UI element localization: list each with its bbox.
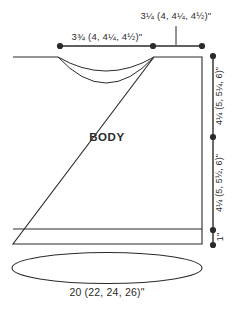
measure-dot	[57, 43, 63, 49]
neck-width-label: 3¾ (4, 4¼, 4½)"	[72, 31, 143, 42]
measure-dot	[210, 227, 216, 233]
measure-dot	[199, 43, 205, 49]
neckline-front-curve	[58, 57, 154, 83]
schematic-drawing: 3¼ (4, 4¼, 4½)" 3¾ (4, 4¼, 4½)" 4¼ (5, 5…	[0, 0, 239, 309]
pattern-schematic: 3¼ (4, 4¼, 4½)" 3¾ (4, 4¼, 4½)" 4¼ (5, 5…	[0, 0, 239, 309]
body-length-label: 4¼ (5, 5½, 6)"	[214, 154, 224, 212]
body-outline	[13, 57, 202, 244]
ribbing-height-label: 1"	[215, 233, 225, 241]
piece-title: BODY	[89, 131, 125, 143]
shoulder-width-label: 3¼ (4, 4¼, 4½)"	[141, 10, 212, 21]
measure-dot	[210, 242, 216, 248]
measure-dot	[150, 43, 156, 49]
hem-ellipse	[12, 253, 202, 284]
measure-dot	[210, 134, 216, 140]
yoke-depth-label: 4¼ (5, 5¼, 6)"	[214, 67, 224, 125]
neckline-back-curve	[58, 57, 154, 71]
measure-dot	[210, 53, 216, 59]
body-circumference-label: 20 (22, 24, 26)"	[69, 286, 144, 298]
